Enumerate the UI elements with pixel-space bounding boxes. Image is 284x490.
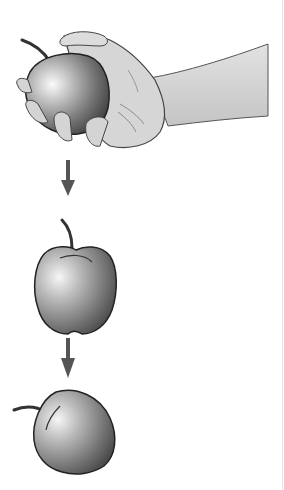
- apple-body-2: [35, 247, 117, 334]
- down-arrow-icon: [61, 338, 75, 378]
- finger-3: [54, 112, 72, 141]
- falling-apple: [35, 220, 117, 334]
- falling-apple-illustration: [0, 0, 284, 490]
- thumb: [60, 32, 108, 46]
- hand-with-apple: [17, 32, 268, 148]
- landed-apple: [14, 390, 115, 474]
- apple-stem-2: [62, 220, 72, 248]
- down-arrow-icon: [61, 160, 75, 196]
- apple-body-3: [34, 390, 115, 474]
- arm-shape: [150, 44, 268, 126]
- illustration-frame: [0, 0, 284, 490]
